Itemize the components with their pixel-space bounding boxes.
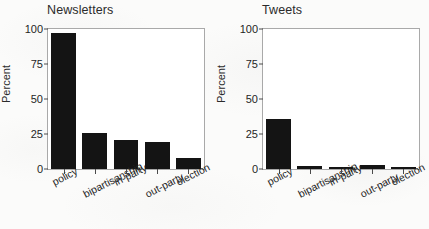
y-tick-label: 0 xyxy=(252,163,258,175)
x-tick-mark xyxy=(310,169,311,174)
bar xyxy=(266,119,291,169)
x-tick-label: election xyxy=(389,161,427,188)
y-tick-mark xyxy=(259,169,263,170)
y-tick-mark xyxy=(259,64,263,65)
chart-panel-tweets: Tweets Percent 0255075100 policybipartis… xyxy=(215,0,429,229)
panel-title-newsletters: Newsletters xyxy=(47,3,113,17)
y-tick-mark xyxy=(259,99,263,100)
y-axis-title-newsletters: Percent xyxy=(0,54,12,114)
bar xyxy=(82,133,107,169)
y-tick-label: 75 xyxy=(31,58,43,70)
y-tick-mark xyxy=(44,169,48,170)
panel-title-tweets: Tweets xyxy=(262,3,302,17)
y-tick-label: 100 xyxy=(240,23,258,35)
y-tick-mark xyxy=(44,29,48,30)
x-tick-mark xyxy=(95,169,96,174)
y-tick-mark xyxy=(259,134,263,135)
y-tick-label: 25 xyxy=(31,128,43,140)
y-tick-label: 50 xyxy=(246,93,258,105)
y-tick-label: 100 xyxy=(25,23,43,35)
y-tick-label: 0 xyxy=(37,163,43,175)
y-tick-label: 25 xyxy=(246,128,258,140)
plot-area-newsletters: 0255075100 policybipartisanshipin-partyo… xyxy=(47,28,205,170)
y-tick-mark xyxy=(44,99,48,100)
chart-panel-newsletters: Newsletters Percent 0255075100 policybip… xyxy=(0,0,215,229)
y-axis-title-tweets: Percent xyxy=(215,54,227,114)
y-tick-mark xyxy=(44,134,48,135)
y-tick-mark xyxy=(44,64,48,65)
y-tick-mark xyxy=(259,29,263,30)
x-tick-mark xyxy=(372,169,373,174)
y-tick-label: 75 xyxy=(246,58,258,70)
bar xyxy=(51,33,76,169)
y-tick-label: 50 xyxy=(31,93,43,105)
x-tick-mark xyxy=(157,169,158,174)
plot-area-tweets: 0255075100 policybipartisanshipin-partyo… xyxy=(262,28,420,170)
bar xyxy=(145,142,170,169)
